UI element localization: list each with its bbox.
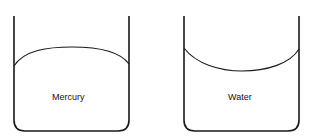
mercury-tube-outline (14, 16, 129, 131)
water-concave-meniscus (184, 48, 299, 71)
water-tube-outline (184, 16, 299, 131)
diagram-canvas (0, 0, 313, 140)
water-tube (184, 16, 299, 131)
mercury-convex-meniscus (14, 47, 129, 66)
water-label: Water (228, 92, 252, 102)
mercury-label: Mercury (52, 92, 85, 102)
mercury-tube (14, 16, 129, 131)
